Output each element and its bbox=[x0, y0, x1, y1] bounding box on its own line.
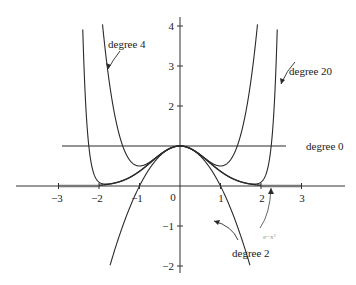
x-tick-label: 3 bbox=[299, 192, 305, 204]
taylor-polynomials-chart: −3 −2 −1 0 1 2 3 4 3 2 −1 −2 degree 4 de… bbox=[0, 0, 356, 285]
gauss-label: e−x² bbox=[263, 233, 276, 241]
degree-2-label: degree 2 bbox=[232, 247, 270, 259]
degree-20-label: degree 20 bbox=[289, 65, 333, 77]
degree-4-label: degree 4 bbox=[108, 38, 146, 50]
x-tick-label: 2 bbox=[259, 192, 265, 204]
y-tick-label: 4 bbox=[169, 20, 175, 32]
y-tick-label: −1 bbox=[162, 220, 174, 232]
arrowhead-icon bbox=[280, 78, 285, 84]
x-tick-label: −2 bbox=[91, 192, 103, 204]
y-tick-label: 3 bbox=[169, 60, 175, 72]
x-tick-label: −3 bbox=[51, 192, 63, 204]
arrowhead-icon bbox=[268, 188, 274, 194]
y-tick-label: −2 bbox=[162, 260, 174, 272]
x-tick-label: −1 bbox=[131, 192, 143, 204]
x-tick-label: 0 bbox=[170, 191, 176, 203]
y-tick-label: 2 bbox=[169, 100, 175, 112]
x-tick-label: 1 bbox=[218, 192, 224, 204]
degree-0-label: degree 0 bbox=[306, 140, 344, 152]
